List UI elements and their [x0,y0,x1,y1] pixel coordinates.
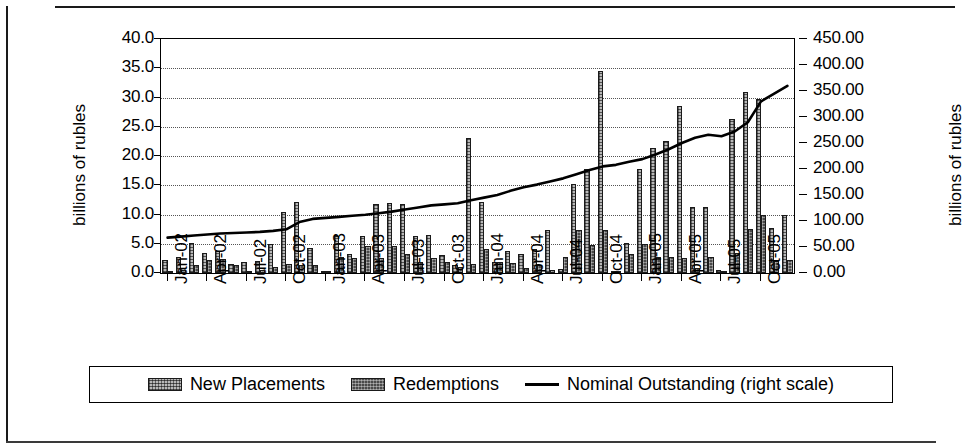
x-axis-tick-mark [760,273,761,281]
y-axis-left-tick-label: 0.0 [42,263,154,280]
y-axis-right-tick-mark [799,168,807,169]
y-axis-right-title: billions of rubles [946,65,966,265]
y-axis-left-tick-label: 5.0 [42,234,154,251]
legend-label: Nominal Outstanding (right scale) [567,374,834,395]
y-axis-right-tick-label: 100.00 [813,211,921,228]
y-axis-left-tick-label: 40.0 [42,29,154,46]
x-axis-tick-label: Apr-02 [212,234,229,284]
legend-item: New Placements [148,374,325,395]
x-axis-tick-label: Apr-05 [687,234,704,284]
legend-label: New Placements [190,374,325,395]
dark-hatch-swatch [351,378,385,391]
y-axis-right-tick-mark [799,220,807,221]
page-left-rule [6,6,8,442]
nominal-outstanding-line [168,86,788,238]
y-axis-right-tick-mark [799,142,807,143]
x-axis-tick-label: Jul-05 [726,239,743,284]
x-axis-tick-mark [404,273,405,281]
x-axis-tick-mark [483,273,484,281]
y-axis-right-tick-mark [799,90,807,91]
y-axis-right-tick-mark [799,64,807,65]
y-axis-right: 0.0050.00100.00150.00200.00250.00300.003… [799,38,909,272]
x-axis-tick-label: Jan-02 [173,233,190,284]
x-axis-tick-label: Apr-03 [370,234,387,284]
x-axis-tick-label: Jul-04 [568,239,585,284]
x-axis-tick-label: Oct-02 [291,234,308,284]
x-axis-tick-mark [206,273,207,281]
y-axis-right-tick-label: 450.00 [813,29,921,46]
y-axis-left-tick-label: 15.0 [42,175,154,192]
line-swatch [525,383,559,386]
y-axis-right-tick-mark [799,246,807,247]
x-axis-tick-mark [720,273,721,281]
legend-label: Redemptions [393,374,499,395]
y-axis-right-tick-label: 400.00 [813,55,921,72]
y-axis-right-tick-mark [799,272,807,273]
y-axis-right-tick-label: 300.00 [813,107,921,124]
page-canvas: billions of rubles billions of rubles 0.… [0,0,966,448]
y-axis-left-tick-label: 25.0 [42,117,154,134]
legend-item: Redemptions [351,374,499,395]
y-axis-left-tick-label: 35.0 [42,58,154,75]
y-axis-right-tick-mark [799,194,807,195]
y-axis-left: 0.05.010.015.020.025.030.035.040.0 [42,38,154,272]
y-axis-left-tick-label: 30.0 [42,88,154,105]
y-axis-right-tick-label: 350.00 [813,81,921,98]
y-axis-right-tick-label: 50.00 [813,237,921,254]
x-axis-tick-label: Jan-04 [489,233,506,284]
x-axis-tick-label: Oct-04 [608,234,625,284]
y-axis-right-tick-label: 250.00 [813,133,921,150]
chart-legend: New PlacementsRedemptionsNominal Outstan… [89,366,893,403]
legend-item: Nominal Outstanding (right scale) [525,374,834,395]
x-axis-tick-mark [523,273,524,281]
x-axis-tick-label: Jan-03 [331,233,348,284]
y-axis-left-tick-label: 10.0 [42,205,154,222]
x-axis-tick-label: Oct-05 [766,234,783,284]
x-axis-tick-mark [602,273,603,281]
page-top-rule [55,6,955,8]
x-axis-tick-mark [285,273,286,281]
light-hatch-swatch [148,378,182,391]
y-axis-right-tick-label: 150.00 [813,185,921,202]
x-axis-tick-mark [246,273,247,281]
y-axis-left-tick-label: 20.0 [42,146,154,163]
x-axis-tick-mark [364,273,365,281]
x-axis-tick-label: Oct-03 [450,234,467,284]
x-axis-tick-label: Apr-04 [529,234,546,284]
x-axis-tick-mark [562,273,563,281]
x-axis-tick-mark [167,273,168,281]
x-axis-tick-label: Jan-05 [647,233,664,284]
y-axis-right-tick-mark [799,38,807,39]
x-axis-labels: Jan-02Apr-02Jul-02Oct-02Jan-03Apr-03Jul-… [160,284,793,364]
y-axis-right-tick-mark [799,116,807,117]
x-axis-tick-mark [681,273,682,281]
x-axis-tick-label: Jul-03 [410,239,427,284]
y-axis-right-tick-label: 0.00 [813,263,921,280]
x-axis-tick-mark [444,273,445,281]
y-axis-right-tick-label: 200.00 [813,159,921,176]
chart-figure: billions of rubles billions of rubles 0.… [42,22,932,422]
x-axis-tick-mark [325,273,326,281]
x-axis-tick-label: Jul-02 [252,239,269,284]
x-axis-tick-mark [641,273,642,281]
page-bottom-rule [6,441,936,443]
